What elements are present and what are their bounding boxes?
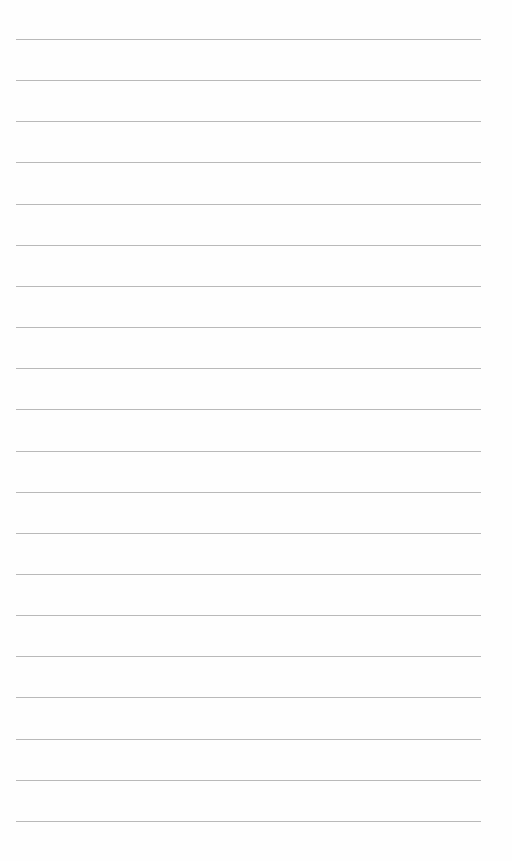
ruled-line <box>16 327 481 328</box>
ruled-line <box>16 533 481 534</box>
ruled-line <box>16 821 481 822</box>
ruled-line <box>16 409 481 410</box>
ruled-line <box>16 80 481 81</box>
lined-paper-sheet <box>0 0 512 861</box>
ruled-line <box>16 368 481 369</box>
ruled-line <box>16 615 481 616</box>
ruled-line <box>16 697 481 698</box>
ruled-line <box>16 656 481 657</box>
ruled-line <box>16 204 481 205</box>
ruled-line <box>16 574 481 575</box>
ruled-line <box>16 451 481 452</box>
ruled-line <box>16 245 481 246</box>
ruled-line <box>16 739 481 740</box>
ruled-line <box>16 492 481 493</box>
ruled-line <box>16 162 481 163</box>
ruled-line <box>16 121 481 122</box>
ruled-line <box>16 780 481 781</box>
ruled-line <box>16 39 481 40</box>
ruled-line <box>16 286 481 287</box>
